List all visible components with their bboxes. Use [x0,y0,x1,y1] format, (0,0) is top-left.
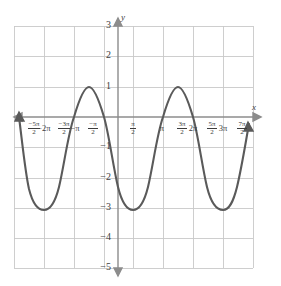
x-axis-label: x [252,103,256,112]
y-tick-label-minus-5: −5 [91,262,111,272]
y-tick-label-minus-4: −4 [91,232,111,242]
x-tick-label-minus-pi-over-2: −π2 [82,121,104,136]
y-tick-label-3: 3 [95,20,111,30]
x-tick-label-pi: π [152,124,172,133]
y-tick-label-minus-3: −3 [91,202,111,212]
sine-curve [19,87,249,210]
y-tick-label-2: 2 [95,50,111,60]
x-tick-label-3pi: 3π [213,124,233,133]
x-tick-label-7pi-over-2: 7π2 [231,121,253,136]
y-tick-label-minus-2: −2 [91,172,111,182]
y-axis-arrow-down [114,268,122,276]
x-axis-arrow-right [253,113,261,121]
x-tick-label-pi-over-2: π2 [123,121,143,136]
y-axis-label: y [121,13,125,22]
x-tick-label-2pi: 2π [183,124,203,133]
coordinate-plane [0,0,281,286]
grid-lines [14,26,253,268]
y-tick-label-1: 1 [95,81,111,91]
graph-figure: 3 2 1 −1 −2 −3 −4 −5 −5π2 −2π −3π2 −π −π… [0,0,281,286]
y-tick-label-minus-1: −1 [91,141,111,151]
